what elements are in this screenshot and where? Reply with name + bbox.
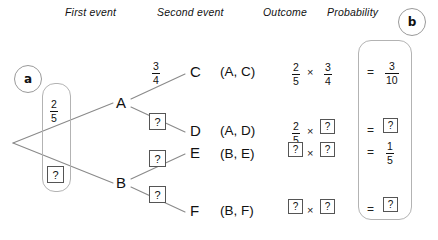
probability-root-to-a: 2 5 xyxy=(50,99,58,123)
fraction-denominator: 4 xyxy=(152,73,160,86)
probability-b-to-e-input[interactable]: ? xyxy=(149,150,166,167)
row-3-factor-1-input[interactable]: ? xyxy=(288,142,303,157)
probability-a-to-c: 3 4 xyxy=(152,61,160,85)
fraction-numerator: 2 xyxy=(292,121,300,133)
fraction-numerator: 3 xyxy=(324,62,332,74)
row-1-factor-2: 3 4 xyxy=(324,62,332,86)
fraction-denominator: 5 xyxy=(292,74,300,87)
tree-node-d: D xyxy=(190,122,201,139)
outcome-row-3: (B, E) xyxy=(220,146,255,161)
tree-node-e: E xyxy=(190,144,200,161)
row-2-equals-operator: = xyxy=(367,123,374,137)
fraction-denominator: 10 xyxy=(385,73,399,86)
row-2-result-input[interactable]: ? xyxy=(383,118,398,133)
tree-node-c: C xyxy=(190,63,201,80)
fraction-numerator: 3 xyxy=(152,61,160,73)
row-4-multiply-operator: × xyxy=(307,204,313,216)
probability-b-to-f-input[interactable]: ? xyxy=(149,186,166,203)
part-label-a: a xyxy=(14,65,42,93)
outcome-row-4: (B, F) xyxy=(220,203,254,218)
tree-node-a: A xyxy=(116,94,126,111)
row-3-result: 1 5 xyxy=(386,141,394,165)
row-3-factor-2-input[interactable]: ? xyxy=(320,142,335,157)
row-4-result-input[interactable]: ? xyxy=(383,197,398,212)
row-1-multiply-operator: × xyxy=(307,66,313,78)
row-2-factor-2-input[interactable]: ? xyxy=(320,119,335,134)
row-2-multiply-operator: × xyxy=(307,125,313,137)
fraction-numerator: 2 xyxy=(50,99,58,111)
row-3-equals-operator: = xyxy=(367,145,374,159)
fraction-denominator: 5 xyxy=(50,111,58,124)
fraction-numerator: 3 xyxy=(388,61,396,73)
row-4-factor-2-input[interactable]: ? xyxy=(320,199,335,214)
fraction-denominator: 4 xyxy=(324,74,332,87)
outcome-row-1: (A, C) xyxy=(220,64,255,79)
row-3-multiply-operator: × xyxy=(307,147,313,159)
row-4-equals-operator: = xyxy=(367,202,374,216)
fraction-denominator: 5 xyxy=(386,153,394,166)
probability-root-to-b-input[interactable]: ? xyxy=(47,166,64,183)
row-4-factor-1-input[interactable]: ? xyxy=(288,199,303,214)
probability-tree-diagram: First event Second event Outcome Probabi… xyxy=(0,0,438,240)
fraction-numerator: 2 xyxy=(292,62,300,74)
outcome-row-2: (A, D) xyxy=(220,123,255,138)
tree-node-f: F xyxy=(190,202,199,219)
part-label-b: b xyxy=(398,8,426,36)
row-1-result: 3 10 xyxy=(385,61,399,85)
row-1-equals-operator: = xyxy=(367,65,374,79)
tree-node-b: B xyxy=(116,174,126,191)
fraction-numerator: 1 xyxy=(386,141,394,153)
probability-a-to-d-input[interactable]: ? xyxy=(149,113,166,130)
row-1-factor-1: 2 5 xyxy=(292,62,300,86)
